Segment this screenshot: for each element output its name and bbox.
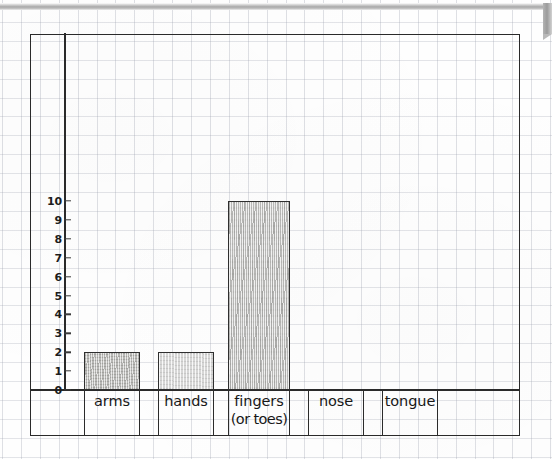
y-axis-tick-label-7: 7 — [36, 252, 62, 263]
scan-edge-corner-tab — [543, 3, 552, 34]
y-axis-tick-label-3: 3 — [36, 328, 62, 339]
y-axis-tick-label-4: 4 — [36, 309, 62, 320]
y-axis-tick-label-1: 1 — [36, 366, 62, 377]
y-axis-tick-label-6: 6 — [36, 271, 62, 282]
y-axis-tick-mark-10 — [64, 200, 71, 201]
category-cell-hands: hands — [158, 390, 214, 436]
y-axis-tick-mark-3 — [64, 333, 71, 334]
y-axis-tick-label-2: 2 — [36, 347, 62, 358]
category-label-fingers: fingers — [234, 393, 283, 411]
bar-fingers — [228, 201, 290, 390]
scan-edge-top-bar — [0, 3, 552, 10]
y-axis-tick-label-5: 5 — [36, 290, 62, 301]
category-label-nose: nose — [319, 393, 353, 411]
category-cell-fingers: fingers(or toes) — [228, 390, 290, 436]
y-axis-tick-mark-5 — [64, 295, 71, 296]
y-axis-tick-mark-9 — [64, 219, 71, 220]
category-sublabel-fingers: (or toes) — [231, 411, 287, 428]
category-cell-arms: arms — [84, 390, 140, 436]
y-axis-tick-mark-7 — [64, 257, 71, 258]
bar-arms — [84, 352, 140, 390]
worksheet-page: 109876543210 armshandsfingers(or toes)no… — [0, 0, 552, 459]
category-label-hands: hands — [164, 393, 208, 411]
y-axis-tick-label-9: 9 — [36, 214, 62, 225]
y-axis-tick-mark-6 — [64, 276, 71, 277]
y-axis-tick-mark-4 — [64, 314, 71, 315]
category-label-arms: arms — [94, 393, 130, 411]
y-axis-tick-mark-0 — [64, 389, 71, 390]
bar-hands — [158, 352, 214, 390]
y-axis-labels: 109876543210 — [32, 0, 62, 459]
category-cell-nose: nose — [308, 390, 364, 436]
y-axis-tick-mark-1 — [64, 370, 71, 371]
y-axis-tick-label-8: 8 — [36, 233, 62, 244]
y-axis-tick-mark-2 — [64, 351, 71, 352]
y-axis-tick-label-0: 0 — [36, 385, 62, 396]
y-axis-tick-label-10: 10 — [36, 196, 62, 207]
y-axis-line — [64, 33, 66, 391]
category-label-tongue: tongue — [385, 393, 435, 411]
category-cell-tongue: tongue — [382, 390, 438, 436]
y-axis-tick-mark-8 — [64, 238, 71, 239]
